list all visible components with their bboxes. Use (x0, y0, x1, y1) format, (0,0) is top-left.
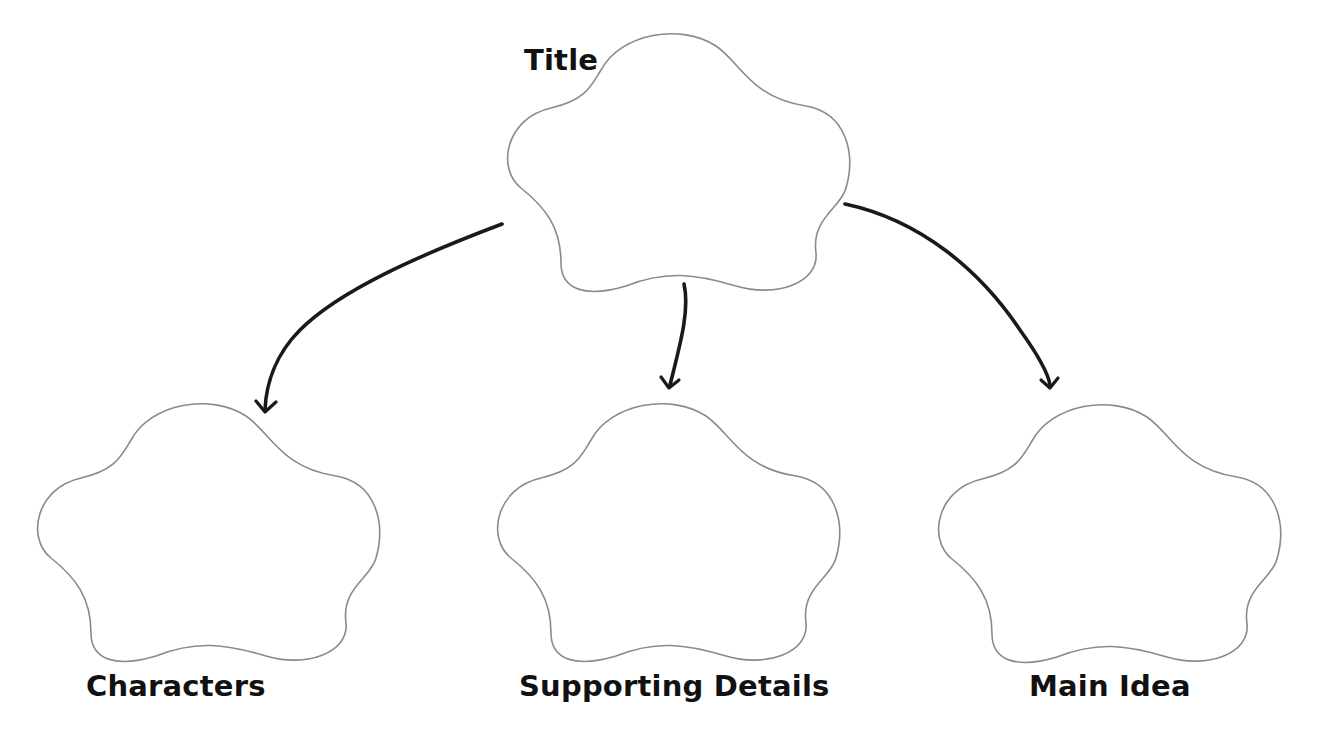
title-label: Title (524, 43, 598, 77)
supporting-details-blob[interactable] (498, 404, 840, 662)
characters-label: Characters (86, 669, 266, 703)
diagram-canvas (0, 0, 1317, 737)
main-idea-blob[interactable] (939, 405, 1281, 663)
arrow-title-to-supporting-details-icon (661, 284, 686, 388)
characters-blob[interactable] (38, 404, 380, 662)
main-idea-label: Main Idea (1029, 669, 1191, 703)
supporting-details-label: Supporting Details (519, 669, 830, 703)
arrow-title-to-main-idea-icon (845, 204, 1058, 388)
arrow-title-to-characters-icon (256, 224, 502, 412)
